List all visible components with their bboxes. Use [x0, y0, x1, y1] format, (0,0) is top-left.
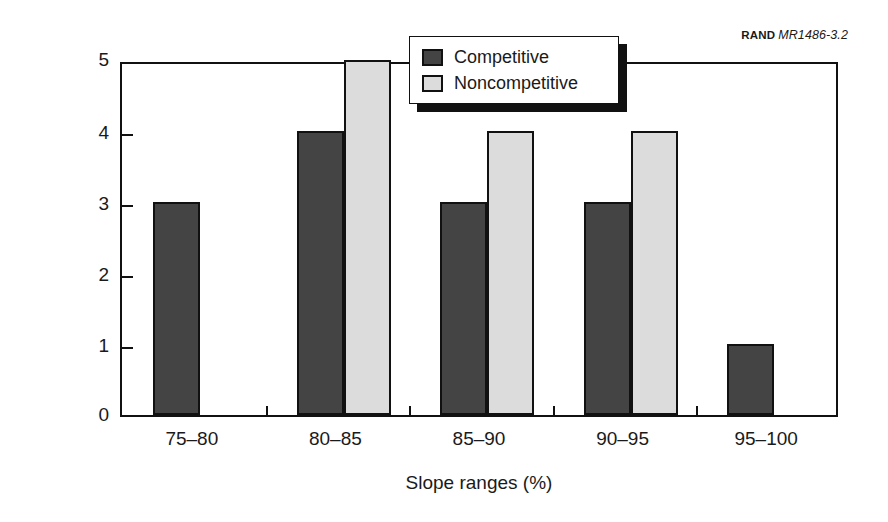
- x-axis-tick: [553, 406, 555, 415]
- rand-logo-text: RAND: [741, 29, 775, 41]
- y-axis-tick-label: 5: [98, 50, 109, 69]
- x-axis-title: Slope ranges (%): [120, 472, 838, 494]
- x-axis-category-label: 75–80: [120, 428, 264, 450]
- y-axis-tick: 3: [122, 205, 133, 207]
- y-axis-tick-label: 1: [98, 336, 109, 355]
- y-axis-tick-label: 0: [98, 405, 109, 424]
- bar-competitive-75-80: [153, 202, 200, 415]
- y-axis-tick-label: 3: [98, 194, 109, 213]
- y-axis-tick: 1: [122, 347, 133, 349]
- bar-competitive-80-85: [297, 131, 344, 415]
- legend-label-competitive: Competitive: [454, 48, 549, 66]
- x-axis-tick: [696, 406, 698, 415]
- legend-label-noncompetitive: Noncompetitive: [454, 74, 578, 92]
- x-axis-tick: [266, 406, 268, 415]
- x-axis-category-label: 90–95: [551, 428, 695, 450]
- y-axis-tick-label: 4: [98, 123, 109, 142]
- x-axis-category-label: 80–85: [264, 428, 408, 450]
- plot-area: 012345: [120, 62, 838, 417]
- legend-entry-competitive: Competitive: [422, 44, 618, 70]
- y-axis-tick: 4: [122, 134, 133, 136]
- legend-entry-noncompetitive: Noncompetitive: [422, 70, 618, 96]
- bar-competitive-90-95: [584, 202, 631, 415]
- legend-swatch-competitive: [422, 49, 443, 66]
- chart-legend: Competitive Noncompetitive: [409, 36, 619, 104]
- plot-inner: 012345: [122, 64, 836, 415]
- rand-credit-line: RANDMR1486-3.2: [741, 28, 848, 42]
- y-axis-tick-label: 2: [98, 265, 109, 284]
- x-axis-category-label: 95–100: [694, 428, 838, 450]
- document-number: MR1486-3.2: [778, 28, 848, 42]
- bar-competitive-95-100: [727, 344, 774, 415]
- x-axis-tick: [409, 406, 411, 415]
- x-axis-category-label: 85–90: [407, 428, 551, 450]
- bar-competitive-85-90: [440, 202, 487, 415]
- legend-swatch-noncompetitive: [422, 75, 443, 92]
- bar-noncompetitive-85-90: [487, 131, 534, 415]
- y-axis-tick: 2: [122, 276, 133, 278]
- bar-noncompetitive-90-95: [631, 131, 678, 415]
- bar-noncompetitive-80-85: [344, 60, 391, 415]
